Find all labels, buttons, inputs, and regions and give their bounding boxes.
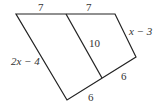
label-middle-segment: 10 [89,37,101,49]
label-bottom-left: 6 [88,91,94,103]
label-left-side: 2x − 4 [11,55,40,67]
label-top-right: 7 [86,1,92,13]
label-bottom-right: 6 [121,70,127,82]
label-top-left: 7 [38,1,44,13]
trapezoid-diagram: 7 7 x − 3 2x − 4 10 6 6 [0,0,156,110]
label-right-side: x − 3 [128,25,153,37]
